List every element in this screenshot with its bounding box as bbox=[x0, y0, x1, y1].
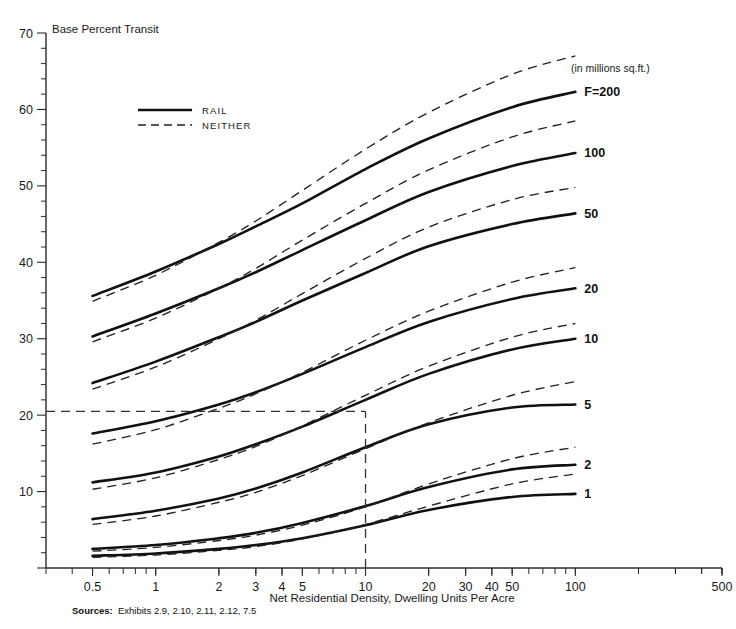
y-tick-label: 30 bbox=[19, 332, 33, 346]
x-tick-label: 1 bbox=[152, 580, 159, 594]
series-label-F=50: 50 bbox=[584, 207, 598, 221]
series-label-F=5: 5 bbox=[584, 398, 591, 412]
sources-text: Exhibits 2.9, 2.10, 2.11, 2.12, 7.5 bbox=[118, 605, 256, 616]
x-tick-label: 3 bbox=[252, 580, 259, 594]
x-tick-label: 500 bbox=[712, 580, 733, 594]
y-tick-label: 60 bbox=[19, 103, 33, 117]
chart-page: 10203040506070 0.5123451020304050100500 … bbox=[0, 0, 736, 629]
x-tick-label: 100 bbox=[565, 580, 586, 594]
y-tick-label: 20 bbox=[19, 409, 33, 423]
y-tick-label: 70 bbox=[19, 27, 33, 41]
base-percent-transit-chart: 10203040506070 0.5123451020304050100500 … bbox=[0, 0, 736, 629]
y-tick-label: 50 bbox=[19, 179, 33, 193]
x-tick-label: 2 bbox=[215, 580, 222, 594]
chart-background bbox=[0, 0, 736, 629]
x-tick-label: 0.5 bbox=[84, 580, 101, 594]
series-label-F=100: 100 bbox=[584, 146, 605, 160]
series-label-F=10: 10 bbox=[584, 332, 598, 346]
y-axis-title: Base Percent Transit bbox=[52, 23, 160, 35]
y-tick-label: 10 bbox=[19, 485, 33, 499]
legend-label-neither: NEITHER bbox=[202, 120, 251, 131]
units-note: (in millions sq.ft.) bbox=[571, 62, 650, 74]
series-label-F=200: F=200 bbox=[584, 85, 620, 99]
series-label-F=2: 2 bbox=[584, 458, 591, 472]
y-tick-label: 40 bbox=[19, 256, 33, 270]
x-axis-title: Net Residential Density, Dwelling Units … bbox=[269, 592, 514, 604]
sources-label: Sources: bbox=[72, 605, 113, 616]
legend-label-rail: RAIL bbox=[202, 105, 228, 116]
series-label-F=20: 20 bbox=[584, 282, 598, 296]
series-label-F=1: 1 bbox=[584, 487, 591, 501]
